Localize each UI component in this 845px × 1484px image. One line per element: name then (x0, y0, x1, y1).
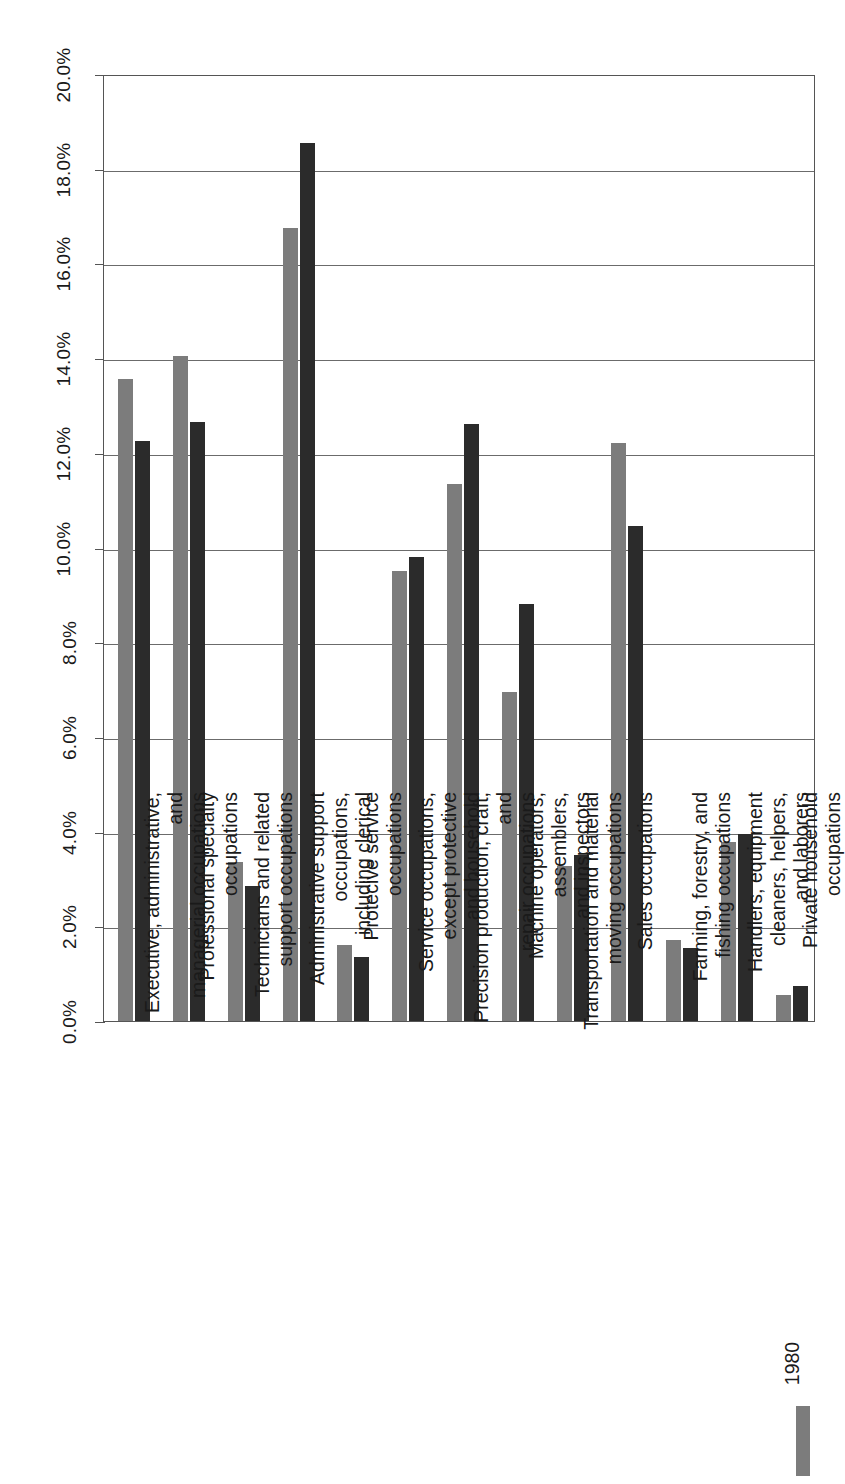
axis-tick-label-text: 6.0% (59, 716, 81, 760)
axis-tick-label: 20.0% (0, 64, 92, 86)
axis-tick-label-text: 16.0% (54, 237, 76, 292)
gridline (104, 455, 814, 456)
gridline (104, 265, 814, 266)
category-label-1: Professional specialty occupations (196, 792, 242, 1032)
axis-tick-label: 4.0% (0, 822, 92, 844)
axis-tick-label-text: 2.0% (59, 905, 81, 949)
axis-tick-label-text: 18.0% (54, 142, 76, 197)
axis-tick-label: 2.0% (0, 916, 92, 938)
legend-swatch-1980 (796, 1406, 810, 1476)
axis-tick-label: 0.0% (0, 1011, 92, 1033)
category-label-9: Sales occupations (634, 792, 657, 1032)
gridline (104, 360, 814, 361)
bar-series1-0 (118, 379, 133, 1021)
axis-tick-label: 8.0% (0, 632, 92, 654)
axis-tick-label-text: 14.0% (54, 332, 76, 387)
axis-tick-label-text: 8.0% (59, 621, 81, 665)
category-label-10: Farming, forestry, and fishing occupatio… (689, 792, 735, 1032)
axis-tick-label-text: 0.0% (59, 1000, 81, 1044)
category-label-2: Technicians and related support occupati… (251, 792, 297, 1032)
axis-tick-label: 16.0% (0, 253, 92, 275)
bar-series1-10 (666, 940, 681, 1021)
category-label-8: Transportation and material moving occup… (580, 792, 626, 1032)
axis-tick-label: 10.0% (0, 538, 92, 560)
axis-tick-label-text: 10.0% (54, 521, 76, 576)
category-label-4: Protecive service occupations (360, 792, 406, 1032)
gridline (104, 171, 814, 172)
axis-tick-label: 14.0% (0, 348, 92, 370)
legend: 1980 (772, 1318, 832, 1478)
axis-tick-label-text: 20.0% (54, 48, 76, 103)
axis-tick (95, 1022, 105, 1023)
axis-tick-label-text: 12.0% (54, 426, 76, 481)
axis-tick-label: 6.0% (0, 727, 92, 749)
category-label-12: Private household occupations (799, 792, 845, 1032)
axis-tick-label: 18.0% (0, 159, 92, 181)
legend-label: 1980 (781, 1314, 804, 1414)
axis-tick-label-text: 4.0% (59, 811, 81, 855)
axis-tick-label: 12.0% (0, 443, 92, 465)
